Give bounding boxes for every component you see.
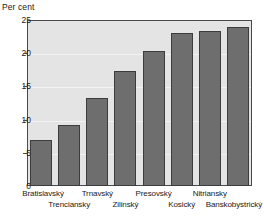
bar	[171, 33, 193, 186]
x-axis-label: Kosický	[168, 200, 195, 209]
x-axis-label: Presovský	[136, 189, 172, 198]
x-axis-label: Banskobystrický	[206, 200, 262, 209]
x-axis-label: Nitriansky	[193, 189, 227, 198]
x-axis-label: Trenciansky	[48, 200, 90, 209]
x-axis-labels: BratislavskýTrencianskyTrnavskýZilinskýP…	[0, 188, 264, 220]
bars-container	[27, 20, 252, 186]
y-axis-title: Per cent	[2, 2, 34, 12]
x-axis-label: Bratislavský	[22, 189, 63, 198]
bar	[143, 51, 165, 186]
bar	[58, 125, 80, 186]
bar	[199, 31, 221, 186]
x-axis-label: Trnavský	[82, 189, 113, 198]
bar	[86, 98, 108, 186]
bar	[114, 71, 136, 186]
x-axis-label: Zilinský	[113, 200, 139, 209]
bar-chart: Per cent 0510152025 BratislavskýTrencian…	[0, 0, 264, 222]
bar	[30, 140, 52, 186]
bar	[227, 27, 249, 186]
